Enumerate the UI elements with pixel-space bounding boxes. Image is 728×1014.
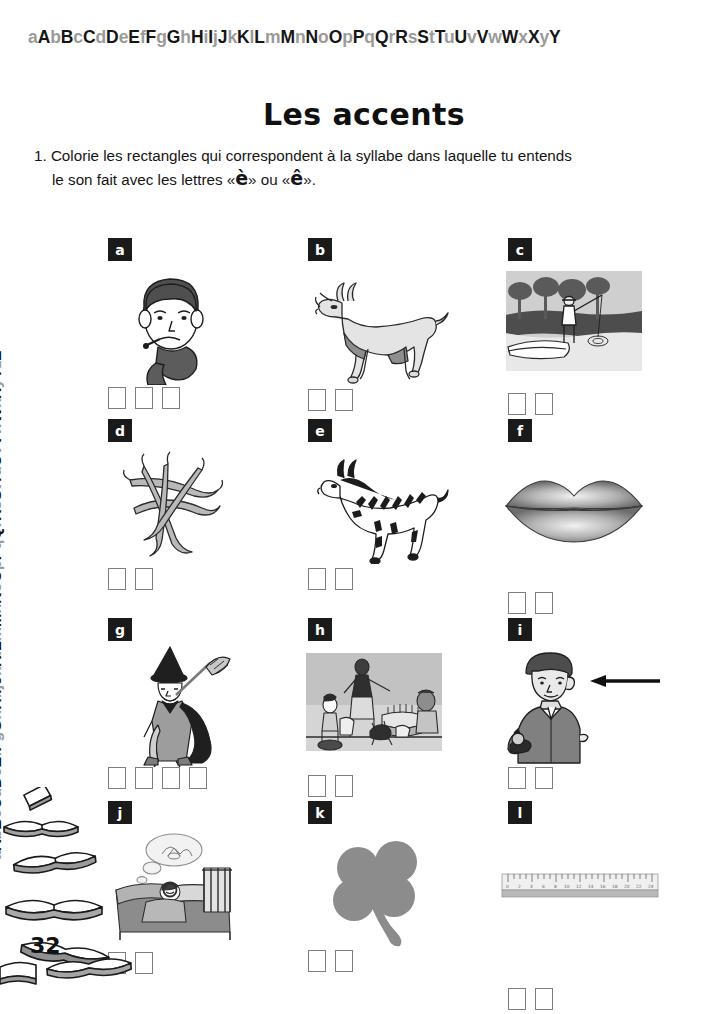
syllable-boxes-i: [508, 767, 708, 793]
syllable-box[interactable]: [308, 950, 326, 972]
exercise-row: j: [108, 801, 708, 1014]
goat-illustration: [308, 267, 508, 389]
alphabet-band-left-text: aAbBcCdDeEfFgGhHiIjJkKlLmMnNoOpPqQrRsStT…: [0, 351, 4, 860]
syllable-box[interactable]: [308, 568, 326, 590]
exercise-item-j: j: [108, 801, 308, 1014]
svg-text:4: 4: [530, 884, 533, 889]
svg-text:6: 6: [542, 884, 545, 889]
item-label-d: d: [108, 419, 132, 442]
page-number: 32: [30, 933, 61, 958]
instruction-line-1: Colorie les rectangles qui correspondent…: [51, 147, 572, 164]
syllable-box[interactable]: [162, 767, 180, 789]
item-label-k: k: [308, 801, 332, 824]
syllable-box[interactable]: [508, 393, 526, 415]
item-label-b: b: [308, 238, 332, 261]
books-decoration-icon: [0, 787, 134, 987]
syllable-box[interactable]: [189, 767, 207, 789]
syllable-box[interactable]: [335, 775, 353, 797]
syllable-box[interactable]: [108, 568, 126, 590]
item-label-a: a: [108, 238, 132, 261]
syllable-box[interactable]: [308, 775, 326, 797]
exercise-item-g: g: [108, 618, 308, 801]
svg-text:18: 18: [612, 884, 618, 889]
exercise-item-h: h: [308, 618, 508, 801]
svg-text:14: 14: [588, 884, 594, 889]
lips-illustration: [508, 470, 708, 592]
exercise-row: a b: [108, 238, 708, 419]
accent-grave-glyph: è: [235, 167, 248, 189]
svg-text:8: 8: [554, 884, 557, 889]
child-dreaming-in-bed-illustration: [108, 830, 308, 952]
svg-text:20: 20: [624, 884, 630, 889]
syllable-box[interactable]: [535, 988, 553, 1010]
syllable-boxes-h: [308, 775, 508, 801]
instruction-line-2: le son fait avec les lettres «è» ou «ê».: [34, 167, 699, 191]
instruction-line-2-after: ».: [303, 171, 316, 188]
instruction-text: 1. Colorie les rectangles qui correspond…: [34, 145, 699, 191]
syllable-box[interactable]: [335, 950, 353, 972]
alphabet-band-top: aAbBcCdDeEfFgGhHiIjJkKlLmMnNoOpPqQrRsStT…: [28, 24, 722, 50]
syllable-box[interactable]: [508, 988, 526, 1010]
item-label-g: g: [108, 618, 132, 641]
man-with-arrow-pointing-to-hair-illustration: [508, 645, 708, 767]
exercise-item-b: b: [308, 238, 508, 419]
svg-text:16: 16: [600, 884, 606, 889]
syllable-box[interactable]: [135, 767, 153, 789]
syllable-boxes-f: [508, 592, 708, 618]
item-label-l: l: [508, 801, 532, 824]
green-beans-illustration: [108, 446, 308, 568]
syllable-box[interactable]: [335, 389, 353, 411]
zebra-illustration: [308, 446, 508, 568]
exercise-row: d e: [108, 419, 708, 618]
exercise-grid: a b: [108, 238, 708, 1014]
syllable-box[interactable]: [335, 568, 353, 590]
instruction-line-2-mid: » ou «: [248, 171, 290, 188]
syllable-box[interactable]: [108, 767, 126, 789]
sick-child-with-thermometer-and-scarf-illustration: [108, 265, 308, 387]
syllable-box[interactable]: [535, 393, 553, 415]
witch-with-broom-and-cape-illustration: [108, 645, 308, 767]
syllable-box[interactable]: [135, 568, 153, 590]
exercise-item-d: d: [108, 419, 308, 618]
exercise-item-e: e: [308, 419, 508, 618]
item-label-e: e: [308, 419, 332, 442]
ruler-illustration: 024 6810 121416 182022 24: [508, 866, 708, 988]
svg-text:10: 10: [564, 884, 570, 889]
syllable-boxes-d: [108, 568, 308, 594]
svg-text:0: 0: [506, 884, 509, 889]
accent-circumflex-glyph: ê: [290, 167, 303, 189]
instruction-line-2-before: le son fait avec les lettres «: [52, 171, 235, 188]
exercise-item-f: f: [508, 419, 708, 618]
exercise-item-a: a: [108, 238, 308, 419]
birthday-party-with-cake-illustration: [308, 653, 508, 775]
syllable-boxes-e: [308, 568, 508, 594]
syllable-box[interactable]: [135, 387, 153, 409]
item-label-h: h: [308, 618, 332, 641]
exercise-item-i: i: [508, 618, 708, 801]
syllable-box[interactable]: [508, 767, 526, 789]
exercise-item-c: c: [508, 238, 708, 419]
exercise-item-k: k: [308, 801, 508, 1014]
item-label-c: c: [508, 238, 532, 261]
page-title: Les accents: [0, 97, 728, 132]
syllable-box[interactable]: [162, 387, 180, 409]
syllable-boxes-a: [108, 387, 308, 413]
item-label-i: i: [508, 618, 532, 641]
syllable-box[interactable]: [108, 387, 126, 409]
fisherman-in-boat-by-lake-illustration: [508, 271, 708, 393]
svg-text:22: 22: [636, 884, 642, 889]
svg-text:2: 2: [518, 884, 521, 889]
syllable-box[interactable]: [135, 952, 153, 974]
syllable-boxes-b: [308, 389, 508, 415]
syllable-box[interactable]: [535, 767, 553, 789]
svg-text:12: 12: [576, 884, 582, 889]
exercise-row: g h: [108, 618, 708, 801]
syllable-box[interactable]: [308, 389, 326, 411]
syllable-box[interactable]: [535, 592, 553, 614]
four-leaf-clover-illustration: [308, 828, 508, 950]
svg-text:24: 24: [648, 884, 654, 889]
alphabet-band-top-text: aAbBcCdDeEfFgGhHiIjJkKlLmMnNoOpPqQrRsStT…: [28, 27, 561, 47]
syllable-box[interactable]: [508, 592, 526, 614]
syllable-boxes-j: [108, 952, 308, 978]
syllable-boxes-c: [508, 393, 708, 419]
